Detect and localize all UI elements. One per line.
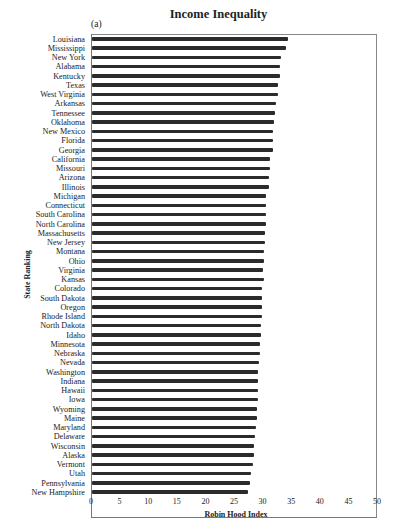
bar bbox=[92, 342, 260, 346]
bar bbox=[92, 296, 262, 300]
category-label: Pennsylvania bbox=[0, 479, 85, 488]
bar bbox=[92, 213, 266, 217]
category-label: New Mexico bbox=[0, 127, 85, 136]
bar bbox=[92, 361, 259, 365]
category-label: Utah bbox=[0, 469, 85, 478]
panel-label: (a) bbox=[91, 19, 102, 29]
bar bbox=[92, 305, 262, 309]
category-label: Idaho bbox=[0, 331, 85, 340]
x-tick-label: 50 bbox=[373, 497, 381, 506]
x-axis-label: Robin Hood Index bbox=[0, 510, 397, 519]
x-tick-label: 15 bbox=[173, 497, 181, 506]
bar bbox=[92, 407, 257, 411]
bar bbox=[92, 435, 255, 439]
category-label: Kentucky bbox=[0, 72, 85, 81]
category-label: Alaska bbox=[0, 451, 85, 460]
category-label: Rhode Island bbox=[0, 312, 85, 321]
category-label: California bbox=[0, 155, 85, 164]
bar bbox=[92, 389, 258, 393]
category-label: Illinois bbox=[0, 183, 85, 192]
bar bbox=[92, 444, 254, 448]
x-tick-label: 10 bbox=[144, 497, 152, 506]
x-tick-label: 40 bbox=[316, 497, 324, 506]
category-label: Louisiana bbox=[0, 35, 85, 44]
category-label: Arizona bbox=[0, 173, 85, 182]
category-label: Georgia bbox=[0, 146, 85, 155]
bar bbox=[92, 46, 286, 50]
category-label: New Hampshire bbox=[0, 488, 85, 497]
category-label: Washington bbox=[0, 368, 85, 377]
category-label: Hawaii bbox=[0, 386, 85, 395]
bar bbox=[92, 194, 266, 198]
category-label: Connecticut bbox=[0, 201, 85, 210]
bar bbox=[92, 463, 253, 467]
category-label: Nebraska bbox=[0, 349, 85, 358]
category-label: Michigan bbox=[0, 192, 85, 201]
bar bbox=[92, 157, 270, 161]
x-tick-label: 5 bbox=[118, 497, 122, 506]
bar bbox=[92, 250, 264, 254]
category-label: Mississippi bbox=[0, 44, 85, 53]
bar bbox=[92, 268, 263, 272]
category-label: Kansas bbox=[0, 275, 85, 284]
bar bbox=[92, 426, 256, 430]
bar bbox=[92, 204, 266, 208]
bar bbox=[92, 74, 280, 78]
category-label: Virginia bbox=[0, 266, 85, 275]
category-label: Wyoming bbox=[0, 405, 85, 414]
category-label: Minnesota bbox=[0, 340, 85, 349]
category-label: Montana bbox=[0, 247, 85, 256]
category-label: Iowa bbox=[0, 395, 85, 404]
x-tick-label: 45 bbox=[344, 497, 352, 506]
category-label: Texas bbox=[0, 81, 85, 90]
x-tick-label: 30 bbox=[259, 497, 267, 506]
bar bbox=[92, 416, 257, 420]
x-tick-label: 25 bbox=[230, 497, 238, 506]
category-label: Wisconsin bbox=[0, 442, 85, 451]
bar bbox=[92, 259, 264, 263]
category-label: Missouri bbox=[0, 164, 85, 173]
bar bbox=[92, 65, 280, 69]
category-label: North Carolina bbox=[0, 220, 85, 229]
bar bbox=[92, 102, 276, 106]
chart-title: Income Inequality bbox=[0, 7, 397, 22]
category-label: Colorado bbox=[0, 284, 85, 293]
x-tick-label: 35 bbox=[287, 497, 295, 506]
bar bbox=[92, 56, 281, 60]
category-label: Oregon bbox=[0, 303, 85, 312]
bar bbox=[92, 370, 258, 374]
category-label: Delaware bbox=[0, 432, 85, 441]
category-label: West Virginia bbox=[0, 90, 85, 99]
x-tick-label: 20 bbox=[201, 497, 209, 506]
category-label: Nevada bbox=[0, 358, 85, 367]
bar bbox=[92, 139, 273, 143]
bar bbox=[92, 83, 278, 87]
bar bbox=[92, 185, 269, 189]
category-label: New York bbox=[0, 53, 85, 62]
category-label: Tennessee bbox=[0, 109, 85, 118]
bar bbox=[92, 379, 258, 383]
category-label: South Dakota bbox=[0, 294, 85, 303]
category-label: Vermont bbox=[0, 460, 85, 469]
category-label: Ohio bbox=[0, 257, 85, 266]
bar bbox=[92, 472, 251, 476]
bar bbox=[92, 111, 275, 115]
bar bbox=[92, 315, 262, 319]
bar bbox=[92, 167, 270, 171]
bar bbox=[92, 120, 274, 124]
category-label: North Dakota bbox=[0, 321, 85, 330]
category-label: Massachusetts bbox=[0, 229, 85, 238]
bar bbox=[92, 352, 260, 356]
bar bbox=[92, 453, 254, 457]
bar bbox=[92, 287, 262, 291]
category-label: Indiana bbox=[0, 377, 85, 386]
category-label: Arkansas bbox=[0, 99, 85, 108]
bar bbox=[92, 333, 261, 337]
bar bbox=[92, 130, 273, 134]
category-label: Maine bbox=[0, 414, 85, 423]
bar bbox=[92, 148, 273, 152]
category-label: Oklahoma bbox=[0, 118, 85, 127]
bar bbox=[92, 278, 264, 282]
category-label: Alabama bbox=[0, 62, 85, 71]
category-label: South Carolina bbox=[0, 210, 85, 219]
